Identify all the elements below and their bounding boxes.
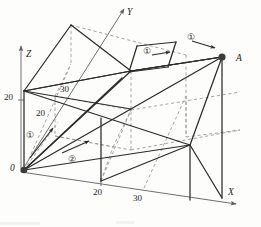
annotation-force-1-ridge: ① [187, 33, 195, 42]
dimension-inner-30: 30 [60, 85, 69, 94]
dimension-x-20: 20 [93, 188, 102, 197]
figure-canvas: Z Y X 0 A 20 20 30 20 30 ① ② ① ① [0, 0, 261, 227]
scan-artifact [0, 222, 40, 225]
dimension-x-30: 30 [133, 194, 142, 203]
z-axis-label: Z [26, 50, 31, 60]
force-arrows [30, 41, 215, 158]
x-axis-label: X [228, 188, 234, 198]
annotation-force-2-base: ② [68, 155, 76, 164]
annotation-force-1-origin: ① [26, 131, 34, 140]
hidden-construction-lines [24, 25, 240, 188]
force-1-roof-arrow [152, 52, 170, 55]
point-a-node [218, 53, 225, 60]
scan-artifact [116, 221, 134, 224]
point-a-label: A [236, 54, 242, 64]
dimension-z-20: 20 [4, 93, 13, 102]
x-axis-line [21, 172, 236, 204]
coordinate-axes [18, 9, 236, 204]
annotation-force-1-roof: ① [143, 47, 151, 56]
origin-label: 0 [10, 164, 15, 174]
y-axis-label: Y [127, 8, 132, 18]
force-1-ridge-arrow [192, 41, 215, 48]
solid-body-edges [24, 25, 222, 200]
dimension-inner-20: 20 [36, 109, 45, 118]
origin-node [21, 167, 28, 174]
force-2-base-arrow [62, 141, 89, 153]
